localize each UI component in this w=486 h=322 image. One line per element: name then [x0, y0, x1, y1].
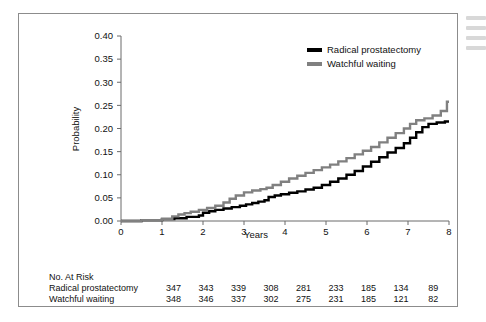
risk-row-value: 281 [287, 283, 320, 294]
svg-text:0.20: 0.20 [95, 123, 114, 134]
risk-row-value: 339 [222, 283, 255, 294]
svg-text:0.00: 0.00 [95, 215, 114, 226]
legend-label-radical-prostatectomy: Radical prostatectomy [327, 45, 421, 55]
legend-item-radical-prostatectomy: Radical prostatectomy [307, 44, 421, 56]
risk-table: No. At Risk Radical prostatectomy3473433… [49, 272, 469, 305]
risk-row-value: 337 [222, 294, 255, 305]
risk-table-title: No. At Risk [49, 272, 469, 282]
margin-mark [466, 26, 486, 30]
risk-row-value: 343 [190, 283, 223, 294]
svg-text:6: 6 [364, 226, 369, 237]
svg-text:7: 7 [405, 226, 410, 237]
risk-row-value: 134 [385, 283, 418, 294]
svg-text:0.30: 0.30 [95, 77, 114, 88]
risk-table-row: Watchful waiting348346337302275231185121… [49, 294, 449, 305]
y-axis-label: Probability [70, 107, 81, 152]
risk-row-value: 308 [255, 283, 288, 294]
risk-row-value: 231 [320, 294, 353, 305]
risk-row-value: 89 [417, 283, 449, 294]
svg-text:0.35: 0.35 [95, 53, 114, 64]
legend-label-watchful-waiting: Watchful waiting [327, 59, 396, 69]
svg-text:0: 0 [118, 226, 123, 237]
figure-root: 0.000.050.100.150.200.250.300.350.400123… [0, 0, 486, 322]
margin-mark [466, 46, 486, 50]
risk-row-label: Watchful waiting [49, 294, 157, 305]
risk-row-value: 275 [287, 294, 320, 305]
risk-table-row: Radical prostatectomy3473433393082812331… [49, 283, 449, 294]
legend-swatch-radical-prostatectomy [307, 48, 322, 52]
svg-text:4: 4 [282, 226, 287, 237]
risk-row-value: 346 [190, 294, 223, 305]
risk-row-value: 347 [157, 283, 190, 294]
svg-text:0.15: 0.15 [95, 146, 114, 157]
svg-text:0.10: 0.10 [95, 169, 114, 180]
svg-text:5: 5 [323, 226, 328, 237]
legend-swatch-watchful-waiting [307, 62, 322, 66]
chart-legend: Radical prostatectomy Watchful waiting [307, 44, 421, 72]
risk-row-value: 348 [157, 294, 190, 305]
legend-item-watchful-waiting: Watchful waiting [307, 58, 421, 70]
margin-mark [466, 16, 486, 20]
svg-text:0.40: 0.40 [95, 30, 114, 41]
risk-row-value: 82 [417, 294, 449, 305]
series-line-watchful-waiting [121, 102, 449, 221]
risk-row-value: 185 [352, 283, 385, 294]
svg-text:0.25: 0.25 [95, 100, 114, 111]
risk-row-label: Radical prostatectomy [49, 283, 157, 294]
svg-text:8: 8 [446, 226, 451, 237]
svg-text:1: 1 [159, 226, 164, 237]
risk-table-grid: Radical prostatectomy3473433393082812331… [49, 283, 449, 305]
page-margin-marks [466, 16, 486, 56]
series-line-radical-prostatectomy [121, 122, 449, 221]
margin-mark [466, 36, 486, 40]
svg-text:2: 2 [200, 226, 205, 237]
risk-row-value: 185 [352, 294, 385, 305]
svg-text:0.05: 0.05 [95, 192, 114, 203]
figure-panel: 0.000.050.100.150.200.250.300.350.400123… [18, 13, 458, 307]
plot-series [121, 102, 449, 221]
risk-row-value: 302 [255, 294, 288, 305]
x-axis-label: Years [244, 229, 268, 240]
risk-row-value: 233 [320, 283, 353, 294]
risk-row-value: 121 [385, 294, 418, 305]
